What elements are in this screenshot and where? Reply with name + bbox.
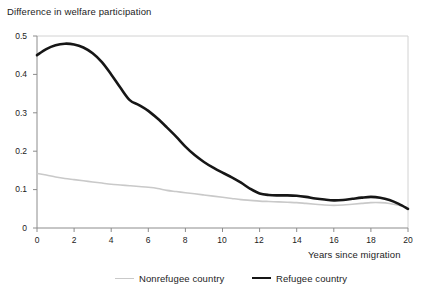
x-tick-label-2: 2 — [64, 236, 84, 245]
series-line-refugee — [37, 44, 408, 209]
x-tick-label-12: 12 — [249, 236, 269, 245]
legend-item-nonrefugee: Nonrefugee country — [115, 271, 224, 285]
y-tick-label-0.1: 0.1 — [1, 185, 27, 194]
y-tick-label-0.4: 0.4 — [1, 70, 27, 79]
x-tick-label-6: 6 — [138, 236, 158, 245]
legend-item-refugee: Refugee country — [252, 271, 347, 285]
x-tick-label-20: 20 — [398, 236, 418, 245]
x-tick-label-4: 4 — [101, 236, 121, 245]
x-tick-label-16: 16 — [324, 236, 344, 245]
legend-label-refugee: Refugee country — [276, 273, 347, 284]
x-tick-label-8: 8 — [175, 236, 195, 245]
chart-figure: Difference in welfare participation — [0, 0, 433, 298]
x-tick-label-0: 0 — [27, 236, 47, 245]
legend-label-nonrefugee: Nonrefugee country — [139, 273, 224, 284]
chart-legend: Nonrefugee country Refugee country — [0, 271, 433, 287]
y-tick-label-0.5: 0.5 — [1, 32, 27, 41]
x-tick-label-14: 14 — [287, 236, 307, 245]
x-axis-ticks — [37, 228, 408, 232]
y-tick-label-0.2: 0.2 — [1, 147, 27, 156]
x-tick-label-18: 18 — [361, 236, 381, 245]
y-tick-label-0.3: 0.3 — [1, 109, 27, 118]
legend-swatch-refugee-icon — [252, 277, 271, 279]
x-axis — [37, 228, 408, 232]
series-line-nonrefugee — [37, 173, 408, 208]
legend-swatch-nonrefugee-icon — [115, 278, 134, 279]
x-axis-title: Years since migration — [308, 249, 401, 260]
y-axis — [33, 36, 37, 228]
y-axis-ticks — [33, 36, 37, 228]
y-tick-label-0: 0 — [1, 224, 27, 233]
x-tick-label-10: 10 — [212, 236, 232, 245]
